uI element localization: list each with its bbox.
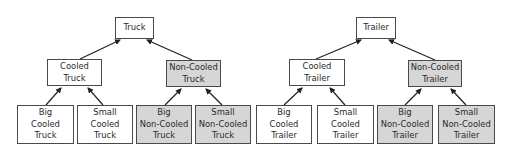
node-small-noncooled-truck: Small Non-Cooled Truck bbox=[195, 105, 251, 144]
node-small-noncooled-trailer: Small Non-Cooled Trailer bbox=[438, 105, 495, 144]
node-trailer: Trailer bbox=[356, 17, 396, 39]
arrow-small-cooled-trailer-to-cooled-trailer bbox=[330, 88, 345, 105]
node-small-cooled-trailer: Small Cooled Trailer bbox=[317, 105, 374, 144]
node-truck: Truck bbox=[115, 17, 154, 39]
arrow-small-noncooled-trailer-to-noncooled-trailer bbox=[451, 89, 466, 105]
arrow-noncooled-trailer-to-trailer bbox=[389, 40, 435, 60]
node-noncooled-truck: Non-Cooled Truck bbox=[166, 60, 221, 87]
arrow-small-cooled-truck-to-cooled-truck bbox=[88, 88, 103, 105]
node-cooled-truck: Cooled Truck bbox=[47, 59, 102, 86]
node-small-cooled-truck: Small Cooled Truck bbox=[77, 105, 133, 144]
arrow-big-cooled-trailer-to-cooled-trailer bbox=[284, 88, 302, 105]
node-big-noncooled-truck: Big Non-Cooled Truck bbox=[136, 105, 192, 144]
arrow-cooled-trailer-to-trailer bbox=[316, 40, 361, 59]
arrow-noncooled-truck-to-truck bbox=[147, 40, 192, 60]
arrow-big-cooled-truck-to-cooled-truck bbox=[46, 88, 61, 105]
arrow-cooled-truck-to-truck bbox=[80, 40, 120, 59]
inheritance-diagram: Truck Cooled Truck Non-Cooled Truck Big … bbox=[0, 0, 512, 151]
arrow-small-noncooled-truck-to-noncooled-truck bbox=[206, 89, 222, 105]
node-big-noncooled-trailer: Big Non-Cooled Trailer bbox=[377, 105, 433, 144]
node-cooled-trailer: Cooled Trailer bbox=[289, 59, 345, 86]
node-noncooled-trailer: Non-Cooled Trailer bbox=[408, 60, 462, 87]
node-big-cooled-truck: Big Cooled Truck bbox=[17, 105, 74, 144]
node-big-cooled-trailer: Big Cooled Trailer bbox=[256, 105, 312, 144]
arrow-big-noncooled-truck-to-noncooled-truck bbox=[165, 89, 181, 105]
arrow-big-noncooled-trailer-to-noncooled-trailer bbox=[405, 89, 421, 105]
